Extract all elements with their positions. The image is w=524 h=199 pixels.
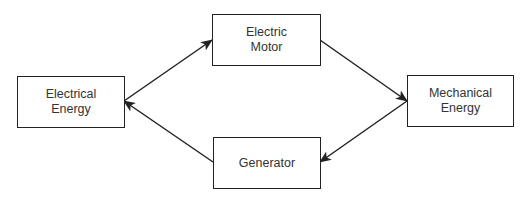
node-mechanical-energy: Mechanical Energy: [407, 75, 514, 127]
arrow-generator-to-electrical: [124, 101, 213, 162]
node-label-line: Motor: [251, 40, 283, 55]
node-electrical-energy: Electrical Energy: [17, 76, 125, 128]
node-label-line: Generator: [239, 156, 295, 171]
node-electric-motor: Electric Motor: [212, 14, 321, 66]
node-label-line: Energy: [51, 102, 91, 117]
node-label-line: Energy: [441, 101, 481, 116]
arrow-motor-to-mechanical: [320, 40, 407, 101]
node-label-line: Electric: [246, 25, 287, 40]
node-generator: Generator: [213, 137, 321, 189]
arrow-electrical-to-motor: [124, 40, 212, 101]
node-label-line: Mechanical: [429, 86, 492, 101]
arrow-mechanical-to-generator: [320, 101, 407, 162]
node-label-line: Electrical: [46, 87, 97, 102]
